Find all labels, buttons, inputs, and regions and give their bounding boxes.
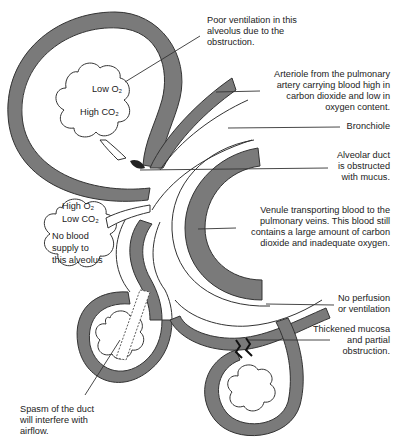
annotation-thickened-mucosa: Thickened mucosa and partial obstruction… (313, 324, 390, 357)
left-cloud-no-blood: No blood (52, 231, 89, 242)
annotation-bronchiole: Bronchiole (347, 121, 390, 132)
annotation-arteriole: Arteriole from the pulmonary artery carr… (274, 69, 390, 113)
mucus-plug (130, 160, 145, 169)
top-cloud-high-co2: High CO₂ (80, 107, 119, 118)
annotation-spasm: Spasm of the duct will interfere with ai… (20, 404, 94, 437)
top-cloud-low-o2: Low O₂ (92, 84, 122, 95)
annotation-venule: Venule transporting blood to the pulmona… (251, 205, 390, 249)
left-cloud-low-co2: Low CO₂ (62, 214, 99, 225)
annotation-no-perfusion: No perfusion or ventilation (338, 293, 390, 315)
annotation-alveolar-duct: Alveolar duct is obstructed with mucus. (337, 150, 390, 183)
left-cloud-supply-to: supply to (52, 243, 89, 254)
left-cloud-this-alveolus: this alveolus (52, 255, 103, 266)
annotation-poor-ventilation: Poor ventilation in this alveolus due to… (207, 15, 297, 48)
left-cloud-high-o2: High O₂ (62, 201, 94, 212)
